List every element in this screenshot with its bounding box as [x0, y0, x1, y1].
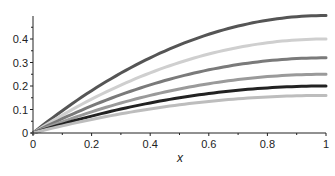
series-line-curve-5	[33, 86, 326, 133]
x-tick-label: 0.8	[260, 138, 275, 150]
y-tick-label: 0.1	[13, 104, 28, 116]
x-axis-label: x	[176, 151, 184, 165]
x-ticks: 00.20.40.60.81	[30, 133, 329, 150]
x-tick-label: 1	[323, 138, 329, 150]
y-tick-label: 0.4	[13, 33, 28, 45]
x-tick-label: 0	[30, 138, 36, 150]
line-chart: 00.10.20.30.4 00.20.40.60.81 x	[0, 0, 335, 176]
y-tick-label: 0.2	[13, 80, 28, 92]
x-tick-label: 0.6	[201, 138, 216, 150]
x-tick-label: 0.4	[143, 138, 158, 150]
series-layer	[33, 16, 326, 134]
x-tick-label: 0.2	[84, 138, 99, 150]
y-tick-label: 0	[22, 127, 28, 139]
y-tick-label: 0.3	[13, 57, 28, 69]
y-ticks: 00.10.20.30.4	[13, 27, 33, 139]
